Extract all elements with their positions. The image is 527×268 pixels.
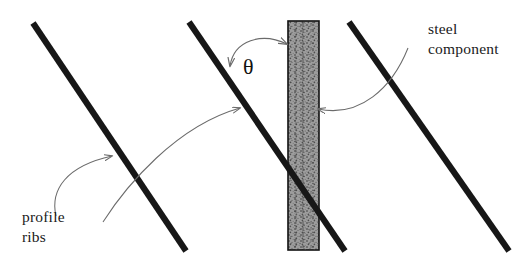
figure-canvas: θ profile ribs steel component — [0, 0, 527, 268]
steel-component-speckle-overlay — [288, 21, 319, 250]
angle-arc-path — [230, 39, 287, 66]
leader-steel-component — [318, 48, 408, 111]
profile-ribs-label-line1: profile — [22, 208, 65, 225]
steel-component-bar — [288, 21, 319, 250]
profile-rib-middle — [189, 22, 345, 251]
steel-component-label-line2: component — [428, 40, 499, 57]
steel-component-label-line1: steel — [428, 20, 457, 37]
angle-arc-theta — [230, 39, 287, 66]
profile-ribs-label-line2: ribs — [22, 228, 46, 245]
leader-profile-ribs-short — [55, 156, 112, 216]
leader-profile-ribs-long — [103, 108, 240, 222]
diagram-svg: θ profile ribs steel component — [0, 0, 527, 268]
angle-label-theta: θ — [243, 54, 254, 79]
